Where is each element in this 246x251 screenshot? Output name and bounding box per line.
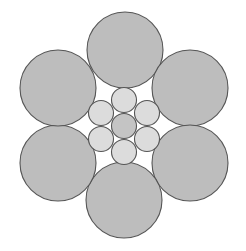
- outer-upper-left-strand: [20, 50, 96, 126]
- outer-upper-right-strand: [152, 50, 228, 126]
- outer-top-strand: [87, 12, 163, 88]
- core-wires-group: [89, 88, 160, 165]
- core-upper-right-wire: [135, 101, 160, 126]
- outer-lower-right-strand: [152, 125, 228, 201]
- core-lower-left-wire: [89, 127, 114, 152]
- core-center-wire: [112, 114, 137, 139]
- diagram-canvas: [0, 0, 246, 251]
- core-lower-right-wire: [135, 127, 160, 152]
- core-top-wire: [112, 88, 137, 113]
- core-bottom-wire: [112, 140, 137, 165]
- core-upper-left-wire: [89, 101, 114, 126]
- outer-bottom-strand: [86, 162, 162, 238]
- wire-rope-diagram: [0, 0, 246, 251]
- outer-lower-left-strand: [20, 125, 96, 201]
